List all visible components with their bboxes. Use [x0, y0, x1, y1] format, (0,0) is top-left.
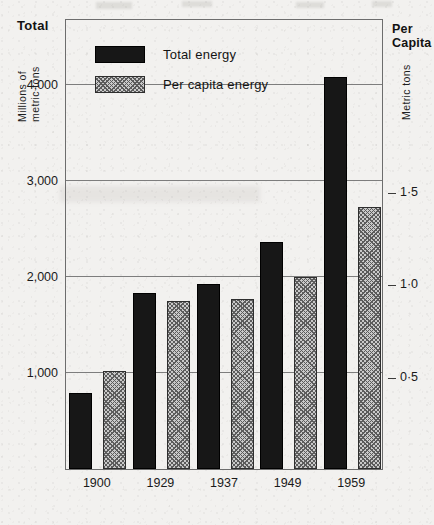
bar-per-capita-energy [103, 371, 126, 469]
legend-label-total-energy: Total energy [163, 47, 236, 62]
bar-total-energy [260, 242, 283, 469]
x-axis-tick-label: 1929 [146, 476, 174, 490]
right-axis-ticks: 0·51·01·5 [383, 0, 434, 525]
x-axis-tick-label: 1937 [210, 476, 238, 490]
bleed-mark [96, 2, 132, 9]
right-axis-tick-mark [388, 378, 396, 379]
bar-total-energy [133, 293, 156, 469]
left-axis-tick-label: 2,000 [27, 270, 58, 284]
bar-per-capita-energy [167, 301, 190, 469]
bar-total-energy [324, 77, 347, 469]
bleed-mark [182, 1, 212, 7]
legend-swatch-total-energy [95, 46, 145, 63]
bar-total-energy [69, 393, 92, 469]
legend-item: Per capita energy [95, 72, 310, 96]
legend-label-per-capita-energy: Per capita energy [163, 77, 268, 92]
bleed-mark [296, 2, 324, 8]
right-axis-tick-label: 0·5 [400, 370, 418, 384]
bar-per-capita-energy [294, 277, 317, 469]
chart-page: Total Millions of metric tons 1,0002,000… [0, 0, 434, 525]
x-axis-tick-label: 1959 [337, 476, 365, 490]
legend-item: Total energy [95, 42, 310, 66]
bar-total-energy [197, 284, 220, 469]
right-axis-tick-label: 1·0 [400, 277, 418, 291]
legend: Total energy Per capita energy [95, 42, 310, 102]
bar-per-capita-energy [358, 207, 381, 469]
left-axis-ticks: 1,0002,0003,0004,000 [0, 0, 62, 525]
left-axis-tick-label: 1,000 [27, 366, 58, 380]
right-axis-tick-label: 1·5 [400, 185, 418, 199]
x-axis-tick-labels: 19001929193719491959 [65, 476, 383, 498]
x-axis-tick-label: 1900 [83, 476, 111, 490]
x-axis-tick-label: 1949 [274, 476, 302, 490]
right-axis-tick-mark [388, 193, 396, 194]
right-axis-tick-mark [388, 285, 396, 286]
left-axis-tick-label: 4,000 [27, 78, 58, 92]
bar-per-capita-energy [231, 299, 254, 469]
left-axis-tick-label: 3,000 [27, 174, 58, 188]
legend-swatch-per-capita-energy [95, 76, 145, 93]
